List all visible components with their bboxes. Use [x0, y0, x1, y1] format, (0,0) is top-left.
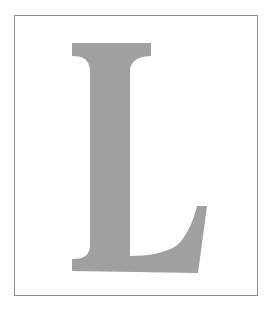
letter-l-glyph — [0, 0, 276, 312]
letter-l-shape — [72, 43, 207, 273]
